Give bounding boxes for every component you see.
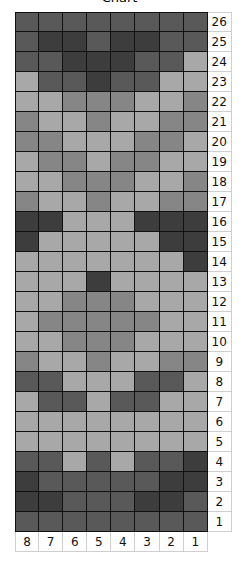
chart-cell: [39, 52, 63, 72]
chart-cell: [184, 152, 208, 172]
chart-cell: [15, 312, 39, 332]
chart-cell: [160, 472, 184, 492]
chart-cell: [39, 452, 63, 472]
chart-cell: [160, 372, 184, 392]
chart-cell: [63, 192, 87, 212]
chart-cell: [87, 392, 111, 412]
chart-cell: [135, 192, 159, 212]
chart-cell: [135, 352, 159, 372]
chart-cell: [184, 312, 208, 332]
chart-cell: [184, 412, 208, 432]
chart-cell: [87, 472, 111, 492]
chart-cell: [111, 372, 135, 392]
chart-cell: [135, 372, 159, 392]
chart-cell: [160, 172, 184, 192]
chart-cell: [15, 212, 39, 232]
chart-cell: [15, 292, 39, 312]
chart-cell: [15, 412, 39, 432]
chart-cell: [111, 272, 135, 292]
chart-cell: [39, 272, 63, 292]
chart-cell: [15, 432, 39, 452]
chart-cell: [135, 52, 159, 72]
chart-cell: [39, 192, 63, 212]
chart-cell: [87, 192, 111, 212]
chart-cell: [87, 32, 111, 52]
chart-cell: [111, 152, 135, 172]
chart-cell: [160, 232, 184, 252]
chart-cell: [87, 232, 111, 252]
row-number-label: 19: [208, 152, 232, 172]
chart-cell: [87, 312, 111, 332]
chart-cell: [39, 172, 63, 192]
chart-cell: [160, 132, 184, 152]
chart-cell: [135, 12, 159, 32]
chart-cell: [184, 292, 208, 312]
chart-cell: [63, 332, 87, 352]
chart-cell: [160, 412, 184, 432]
chart-cell: [87, 172, 111, 192]
chart-cell: [39, 232, 63, 252]
row-number-label: 24: [208, 52, 232, 72]
chart-cell: [15, 232, 39, 252]
chart-cell: [15, 12, 39, 32]
chart-cell: [87, 272, 111, 292]
row-number-label: 17: [208, 192, 232, 212]
column-number-label: 4: [111, 532, 135, 552]
row-number-label: 21: [208, 112, 232, 132]
chart-cell: [135, 92, 159, 112]
chart-cell: [15, 72, 39, 92]
chart-cell: [160, 332, 184, 352]
chart-cell: [15, 92, 39, 112]
chart-cell: [15, 352, 39, 372]
chart-cell: [184, 332, 208, 352]
chart-cell: [63, 172, 87, 192]
chart-cell: [39, 512, 63, 532]
row-number-label: 14: [208, 252, 232, 272]
chart-cell: [160, 152, 184, 172]
chart-cell: [15, 472, 39, 492]
chart-cell: [184, 132, 208, 152]
chart-cell: [87, 372, 111, 392]
chart-cell: [135, 132, 159, 152]
column-number-label: 6: [63, 532, 87, 552]
chart-cell: [160, 452, 184, 472]
chart-cell: [39, 312, 63, 332]
chart-cell: [39, 152, 63, 172]
chart-cell: [87, 332, 111, 352]
row-number-label: 2: [208, 492, 232, 512]
chart-cell: [135, 272, 159, 292]
chart-cell: [111, 312, 135, 332]
chart-cell: [87, 292, 111, 312]
chart-cell: [160, 212, 184, 232]
chart-cell: [184, 272, 208, 292]
row-number-label: 23: [208, 72, 232, 92]
row-number-label: 22: [208, 92, 232, 112]
chart-cell: [184, 192, 208, 212]
chart-cell: [63, 452, 87, 472]
chart-cell: [135, 392, 159, 412]
chart-cell: [184, 72, 208, 92]
column-number-label: 5: [87, 532, 111, 552]
chart-cell: [135, 312, 159, 332]
chart-cell: [135, 152, 159, 172]
chart-cell: [135, 332, 159, 352]
chart-cell: [184, 512, 208, 532]
chart-cell: [15, 52, 39, 72]
chart-cell: [87, 152, 111, 172]
chart-cell: [184, 472, 208, 492]
row-number-label: 1: [208, 512, 232, 532]
chart-cell: [160, 292, 184, 312]
chart-cell: [63, 352, 87, 372]
chart-cell: [63, 72, 87, 92]
chart-cell: [63, 312, 87, 332]
chart-cell: [39, 412, 63, 432]
column-number-label: 1: [184, 532, 208, 552]
row-number-label: 7: [208, 392, 232, 412]
chart-cell: [111, 512, 135, 532]
chart-cell: [111, 72, 135, 92]
chart-cell: [135, 512, 159, 532]
chart-cell: [87, 212, 111, 232]
chart-cell: [87, 492, 111, 512]
chart-cell: [87, 412, 111, 432]
chart-cell: [184, 92, 208, 112]
